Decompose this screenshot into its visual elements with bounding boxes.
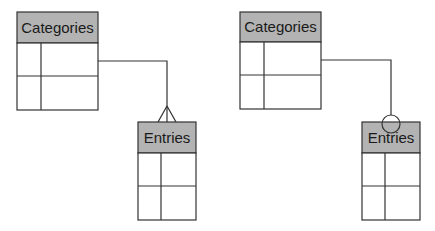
crows-foot-icon — [158, 106, 176, 122]
diagram-2: Categories Entries — [240, 12, 420, 220]
entity-entries-2[interactable]: Entries — [362, 122, 420, 220]
diagram-1: Categories Entries — [17, 12, 196, 220]
relationship-line-1[interactable] — [98, 61, 176, 122]
entity-entries-1[interactable]: Entries — [138, 122, 196, 220]
entity-title: Categories — [244, 18, 317, 35]
entity-title: Entries — [144, 129, 191, 146]
entity-categories-1[interactable]: Categories — [17, 12, 98, 110]
er-diagram-canvas: Categories Entries Categories — [0, 0, 435, 231]
entity-title: Categories — [21, 19, 94, 36]
relationship-line-2[interactable] — [321, 60, 391, 115]
entity-categories-2[interactable]: Categories — [240, 12, 321, 109]
entity-title: Entries — [368, 129, 415, 146]
